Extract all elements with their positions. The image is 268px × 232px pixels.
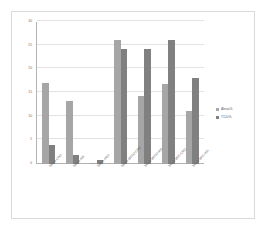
x-axis-tick: SMLO-MECO-CRO <box>109 165 133 205</box>
x-axis-tick: SMLO-CRO <box>37 165 61 205</box>
bar-group <box>132 22 156 164</box>
legend-swatch-icon <box>216 108 219 111</box>
bar-group <box>180 22 204 164</box>
legend-item[interactable]: T12v% <box>216 116 254 120</box>
bar <box>121 49 128 164</box>
x-axis-tick: SMLO-MECO-RSI <box>132 165 156 205</box>
bar <box>144 49 151 164</box>
bar-group <box>109 22 133 164</box>
y-axis: 051015202530 <box>12 22 34 164</box>
bar-series-layer <box>37 22 204 164</box>
legend-item-label: Alexa% <box>221 108 233 112</box>
y-axis-tick-label: 5 <box>30 139 32 142</box>
y-axis-tick-label: 15 <box>28 91 32 94</box>
y-axis-tick-label: 0 <box>30 162 32 165</box>
legend-item-label: T12v% <box>221 116 232 120</box>
legend-swatch-icon <box>216 116 219 119</box>
gridline <box>37 20 204 21</box>
bar-group <box>61 22 85 164</box>
chart-legend: Alexa%T12v% <box>216 108 254 123</box>
x-axis-tick: SMLO-PRO <box>85 165 109 205</box>
bar-group <box>156 22 180 164</box>
bar <box>168 40 175 164</box>
x-axis: SMLO-CROSMLO-RSISMLO-PROSMLO-MECO-CROSML… <box>37 165 204 205</box>
y-axis-tick-label: 30 <box>28 20 32 23</box>
legend-item[interactable]: Alexa% <box>216 108 254 112</box>
x-axis-tick: SMLO-MEC-CRO <box>156 165 180 205</box>
bar-group <box>37 22 61 164</box>
y-axis-tick-label: 10 <box>28 115 32 118</box>
y-axis-tick-label: 20 <box>28 68 32 71</box>
bar <box>192 78 199 164</box>
bar-group <box>85 22 109 164</box>
x-axis-tick: SMLO-RSI <box>61 165 85 205</box>
chart-container: 051015202530 SMLO-CROSMLO-RSISMLO-PROSML… <box>11 11 255 219</box>
y-axis-tick-label: 25 <box>28 44 32 47</box>
x-axis-tick: SMLO-MEC-RSI <box>180 165 204 205</box>
